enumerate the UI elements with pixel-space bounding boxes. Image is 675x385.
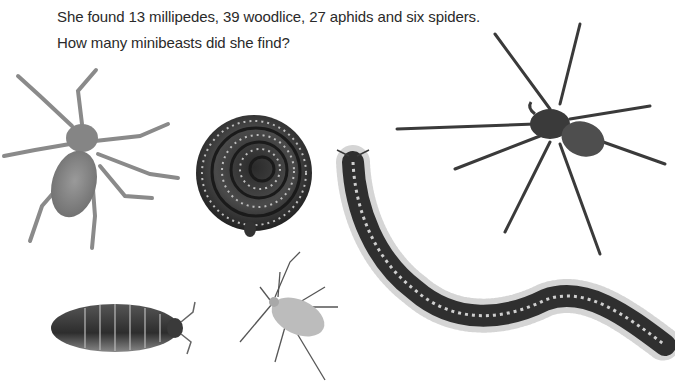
coiled-millipede-image	[192, 113, 322, 243]
woodlouse-image	[45, 290, 200, 365]
long-millipede-image	[335, 150, 674, 365]
pale-spider-image	[0, 66, 185, 251]
aphid-image	[230, 252, 345, 382]
